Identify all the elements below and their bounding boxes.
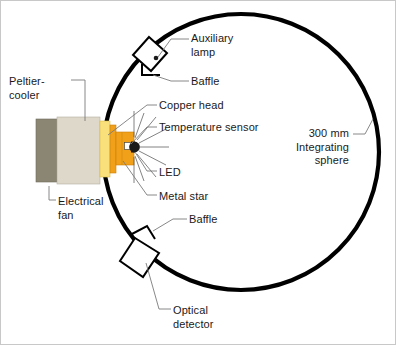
integrating-sphere-diagram: Peltier- cooler Electrical fan Auxiliary…	[0, 0, 396, 345]
label-metal-star: Metal star	[159, 190, 239, 204]
label-baffle-bottom: Baffle	[189, 213, 249, 227]
label-temperature-sensor: Temperature sensor	[159, 121, 279, 135]
auxiliary-lamp-assembly	[133, 37, 167, 75]
label-copper-head: Copper head	[159, 99, 249, 113]
leader-metal-star	[123, 161, 157, 195]
label-auxiliary-lamp: Auxiliary lamp	[191, 32, 261, 59]
label-electrical-fan: Electrical fan	[58, 195, 128, 222]
leader-baffle-bottom	[153, 219, 187, 231]
label-optical-detector: Optical detector	[173, 304, 243, 331]
electrical-fan-body	[36, 119, 57, 182]
optical-detector-housing	[120, 238, 159, 277]
optical-detector-assembly	[120, 226, 159, 277]
copper-head-plate	[100, 121, 110, 177]
label-integrating-sphere: 300 mm Integrating sphere	[275, 127, 349, 168]
peltier-cooler-body	[57, 117, 100, 184]
auxiliary-lamp-housing	[133, 37, 167, 71]
metal-star-flange	[110, 125, 116, 173]
label-peltier-cooler: Peltier- cooler	[9, 75, 71, 102]
leader-peltier-cooler	[71, 80, 85, 121]
leader-electrical-fan	[49, 186, 56, 200]
leader-integrating-sphere	[353, 119, 373, 134]
auxiliary-lamp-source	[154, 56, 159, 61]
label-baffle-top: Baffle	[191, 75, 251, 89]
label-led: LED	[159, 166, 199, 180]
